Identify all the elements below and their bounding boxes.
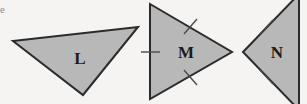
triangle-n-label: N [271,44,283,61]
triangle-l-label: L [74,50,85,67]
triangle-m-label: M [178,44,194,61]
triangles-canvas [0,0,307,104]
geometry-figure: e LMN [0,0,307,104]
